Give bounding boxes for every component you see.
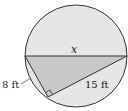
long-leg-label: 15 ft [85, 79, 109, 90]
circle-triangle-diagram: x 8 ft 15 ft [0, 0, 128, 111]
diameter-label: x [71, 43, 78, 56]
short-leg-leader-line [21, 78, 31, 84]
short-leg-label: 8 ft [2, 79, 19, 90]
